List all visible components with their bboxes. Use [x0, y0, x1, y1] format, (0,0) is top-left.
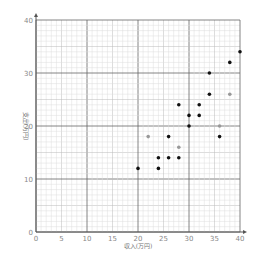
- data-point: [136, 167, 140, 171]
- y-tick-label: 30: [24, 70, 33, 78]
- data-point: [167, 135, 171, 139]
- data-point: [157, 167, 161, 171]
- data-point: [187, 114, 191, 118]
- data-point: [238, 50, 242, 54]
- x-axis-label: 収入(万円): [124, 242, 153, 250]
- x-tick-label: 15: [108, 235, 117, 243]
- x-arrow-icon: [243, 230, 247, 234]
- x-tick-label: 10: [83, 235, 92, 243]
- x-tick-label: 5: [59, 235, 63, 243]
- data-point: [208, 92, 212, 96]
- data-point: [228, 92, 232, 96]
- y-arrow-icon: [34, 13, 38, 17]
- x-tick-label: 0: [34, 235, 38, 243]
- x-tick-label: 25: [159, 235, 168, 243]
- data-point: [218, 135, 222, 139]
- data-point: [218, 124, 222, 128]
- data-point: [177, 156, 181, 160]
- y-tick-label: 40: [24, 17, 33, 25]
- grid: [36, 20, 240, 232]
- axes: [34, 13, 247, 234]
- tick-labels: 0510152025303540010203040: [24, 17, 244, 243]
- y-tick-label: 0: [29, 229, 33, 237]
- data-point: [197, 114, 201, 118]
- data-point: [167, 156, 171, 160]
- data-point: [157, 156, 161, 160]
- x-tick-label: 40: [236, 235, 245, 243]
- scatter-chart: 0510152025303540010203040 収入(万円) 支出(万円): [0, 0, 259, 259]
- x-tick-label: 35: [210, 235, 219, 243]
- y-tick-label: 10: [24, 176, 33, 184]
- data-point: [177, 103, 181, 107]
- data-point: [208, 71, 212, 75]
- data-point: [187, 124, 191, 128]
- data-point: [228, 61, 232, 65]
- x-tick-label: 30: [185, 235, 194, 243]
- data-point: [197, 103, 201, 107]
- data-point: [177, 145, 181, 149]
- data-point: [146, 135, 150, 139]
- y-axis-label: 支出(万円): [22, 112, 30, 141]
